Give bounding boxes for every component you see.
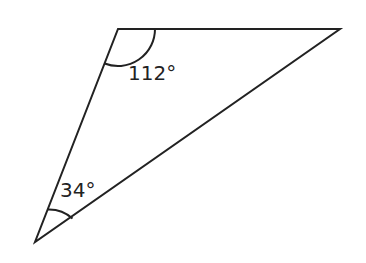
angle-label-112: 112° (128, 61, 176, 85)
triangle (35, 29, 340, 242)
angle-arc-34 (48, 209, 73, 218)
angle-label-34: 34° (60, 178, 95, 202)
triangle-diagram: 112° 34° (0, 0, 366, 263)
